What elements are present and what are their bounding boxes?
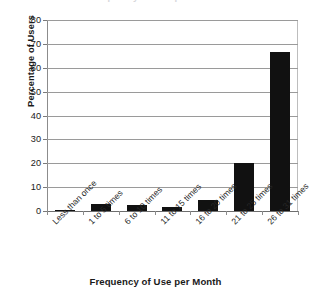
gridline-80 — [47, 20, 298, 21]
bar-chart-figure: Percentage of Users 01020304050607080 Le… — [0, 0, 311, 298]
y-tick-mark-10 — [43, 187, 47, 188]
y-tick-label-40: 40 — [1, 112, 41, 121]
gridline-50 — [47, 92, 298, 93]
x-tick-mark-6 — [226, 211, 227, 215]
gridline-40 — [47, 116, 298, 117]
y-tick-mark-30 — [43, 139, 47, 140]
gridline-30 — [47, 139, 298, 140]
gridline-20 — [47, 163, 298, 164]
y-tick-label-50: 50 — [1, 88, 41, 97]
y-tick-label-0: 0 — [1, 207, 41, 216]
y-tick-mark-20 — [43, 163, 47, 164]
gridline-70 — [47, 44, 298, 45]
gridline-60 — [47, 68, 298, 69]
x-tick-mark-4 — [155, 211, 156, 215]
y-tick-label-70: 70 — [1, 40, 41, 49]
y-tick-label-10: 10 — [1, 183, 41, 192]
y-tick-label-30: 30 — [1, 135, 41, 144]
y-tick-label-80: 80 — [1, 16, 41, 25]
y-tick-mark-50 — [43, 92, 47, 93]
y-tick-mark-70 — [43, 44, 47, 45]
x-tick-mark-1 — [47, 211, 48, 215]
y-tick-label-60: 60 — [1, 64, 41, 73]
y-tick-mark-60 — [43, 68, 47, 69]
y-tick-mark-40 — [43, 116, 47, 117]
x-tick-mark-end — [298, 211, 299, 215]
x-axis-title: Frequency of Use per Month — [0, 276, 311, 287]
y-tick-mark-80 — [43, 20, 47, 21]
x-tick-mark-5 — [190, 211, 191, 215]
y-tick-label-20: 20 — [1, 159, 41, 168]
x-tick-mark-3 — [119, 211, 120, 215]
x-tick-mark-7 — [262, 211, 263, 215]
x-tick-mark-2 — [83, 211, 84, 215]
